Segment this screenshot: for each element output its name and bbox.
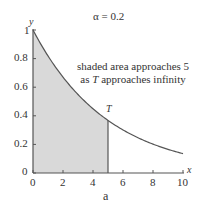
- annotation-line-1: shaded area approaches 5: [77, 61, 189, 72]
- y-tick-label: 0.6: [14, 81, 28, 92]
- y-tick-label: 0.8: [14, 52, 28, 63]
- annotation-line-2: as T approaches infinity: [77, 74, 189, 85]
- x-tick-label: 0: [30, 177, 36, 188]
- annotation: shaded area approaches 5 as T approaches…: [77, 61, 189, 85]
- y-tick-label: 0.2: [14, 138, 28, 149]
- x-tick-label: 10: [177, 177, 188, 188]
- y-tick-label: 0: [22, 166, 28, 177]
- x-tick-label: 4: [90, 177, 96, 188]
- x-tick-label: 6: [120, 177, 126, 188]
- x-tick-label: 2: [60, 177, 66, 188]
- caption: a: [103, 190, 108, 202]
- t-label: T: [106, 104, 112, 114]
- chart-title: α = 0.2: [93, 11, 124, 22]
- y-tick-label: 1: [24, 25, 30, 36]
- x-axis-label: x: [187, 165, 191, 175]
- shaded-area: [33, 30, 108, 173]
- y-axis-label: y: [29, 17, 33, 27]
- y-tick-label: 0.4: [14, 109, 28, 120]
- x-tick-label: 8: [150, 177, 156, 188]
